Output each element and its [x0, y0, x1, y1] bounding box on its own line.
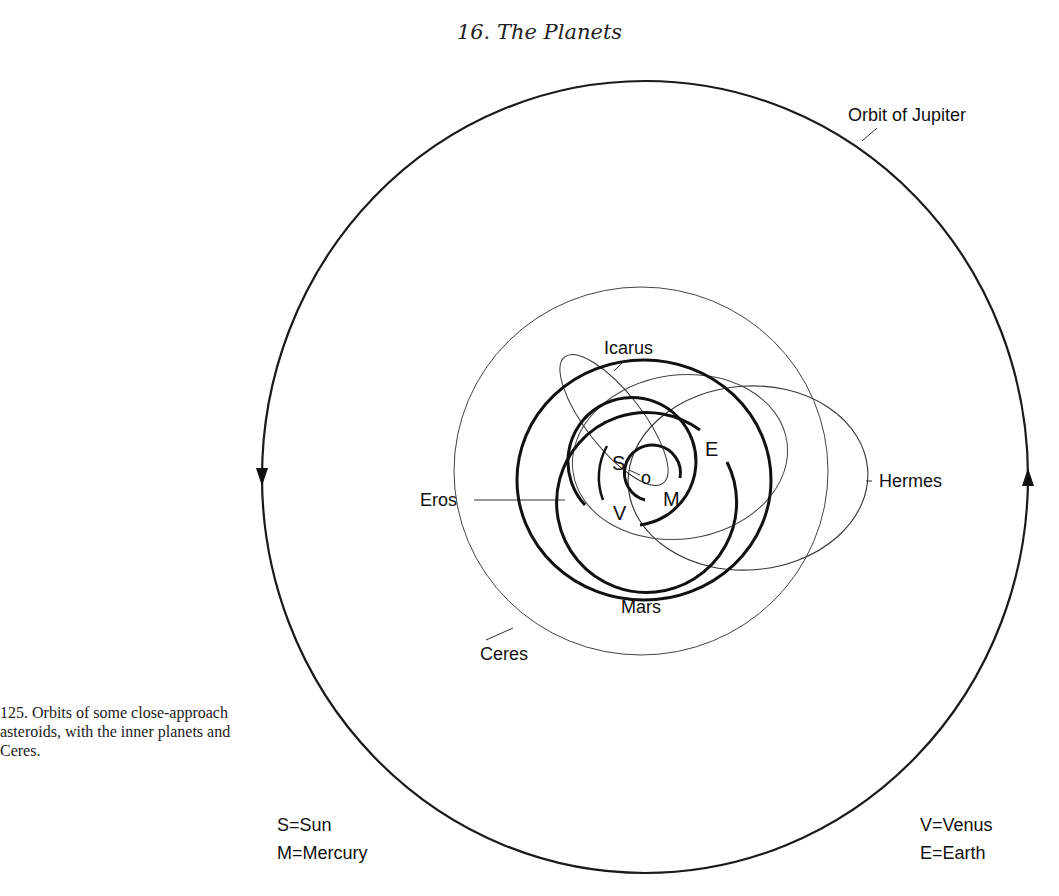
- label-venus: V: [613, 502, 627, 524]
- legend-item-sun: S=Sun: [277, 811, 368, 839]
- label-eros: Eros: [420, 490, 457, 510]
- figure-caption: 125. Orbits of some close-approach aster…: [0, 703, 240, 760]
- orbit-diagram: Orbit of Jupiter Ceres Hermes Eros Icaru…: [0, 0, 1059, 896]
- arrow-down-icon: [256, 468, 268, 486]
- sun-marker: o: [641, 468, 651, 488]
- legend-item-mercury: M=Mercury: [277, 839, 368, 867]
- label-mars: Mars: [621, 597, 661, 617]
- jupiter-leader: [862, 128, 877, 141]
- arrow-up-icon: [1022, 468, 1034, 486]
- sun-leader: [629, 470, 640, 475]
- label-icarus: Icarus: [604, 338, 653, 358]
- legend-right: V=Venus E=Earth: [920, 811, 993, 867]
- legend-left: S=Sun M=Mercury: [277, 811, 368, 867]
- label-ceres: Ceres: [480, 644, 528, 664]
- ceres-leader: [486, 628, 513, 640]
- label-mercury: M: [663, 488, 680, 510]
- legend-item-venus: V=Venus: [920, 811, 993, 839]
- legend-item-earth: E=Earth: [920, 839, 993, 867]
- label-sun: S: [612, 452, 625, 474]
- label-jupiter: Orbit of Jupiter: [848, 105, 966, 125]
- label-earth: E: [705, 438, 718, 460]
- label-hermes: Hermes: [879, 471, 942, 491]
